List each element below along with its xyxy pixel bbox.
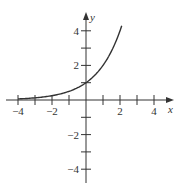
y-tick-label: 2 <box>74 59 80 71</box>
exponential-graph: −4−22442−2−4 x y <box>0 0 182 193</box>
y-axis-arrow-icon <box>83 12 89 20</box>
x-tick-label: 4 <box>151 105 157 117</box>
x-tick-label: 2 <box>117 105 123 117</box>
exponential-curve <box>18 26 122 99</box>
x-tick-label: −4 <box>12 105 24 117</box>
x-tick-label: −2 <box>46 105 58 117</box>
y-tick-label: 4 <box>74 25 80 37</box>
y-axis-label: y <box>89 11 95 23</box>
y-tick-label: −4 <box>67 163 79 175</box>
x-axis-label: x <box>167 103 173 115</box>
y-tick-label: −2 <box>67 129 79 141</box>
